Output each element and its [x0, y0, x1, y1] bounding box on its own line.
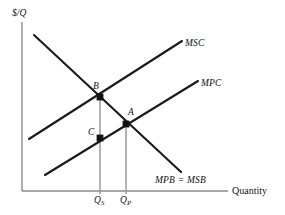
- x-tick-qs-subscript: S: [101, 199, 104, 206]
- curve-label-msc: MSC: [185, 39, 205, 49]
- curve-mpc: [45, 81, 198, 175]
- curve-label-mpc: MPC: [201, 79, 222, 89]
- curve-msc: [29, 41, 182, 139]
- x-tick-qs-base: Q: [94, 195, 101, 205]
- point-label-a: A: [128, 108, 134, 118]
- y-axis-label: $/Q: [12, 9, 26, 19]
- point-c-marker: [97, 135, 104, 142]
- diagram-canvas: [0, 0, 285, 215]
- point-label-b: B: [93, 82, 99, 92]
- point-b-marker: [97, 94, 104, 101]
- curve-label-mpb-msb: MPB = MSB: [155, 176, 206, 186]
- externality-diagram: $/Q Quantity MSC MPC MPB = MSB B A C QS …: [0, 0, 285, 215]
- x-tick-label-qp: QP: [120, 196, 131, 206]
- x-tick-qp-subscript: P: [127, 199, 131, 206]
- point-label-c: C: [88, 128, 94, 138]
- x-tick-label-qs: QS: [94, 196, 104, 206]
- x-axis-label: Quantity: [232, 186, 267, 196]
- point-a-marker: [123, 121, 130, 128]
- x-tick-qp-base: Q: [120, 195, 127, 205]
